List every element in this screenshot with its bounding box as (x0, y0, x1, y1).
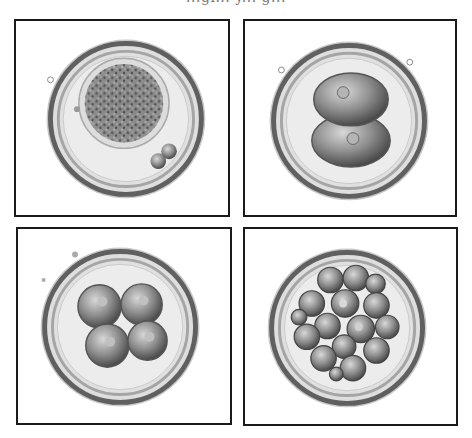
zygote-illustration (16, 21, 228, 215)
two-cell-illustration (245, 21, 455, 215)
figure-caption-cutoff: ...gi... y... g... (0, 0, 472, 5)
morula-illustration (245, 229, 456, 424)
panel-two-cell (243, 19, 457, 217)
panel-morula (243, 227, 458, 426)
panel-four-cell (16, 227, 232, 425)
four-cell-illustration (18, 229, 230, 423)
panel-zygote (14, 19, 230, 217)
